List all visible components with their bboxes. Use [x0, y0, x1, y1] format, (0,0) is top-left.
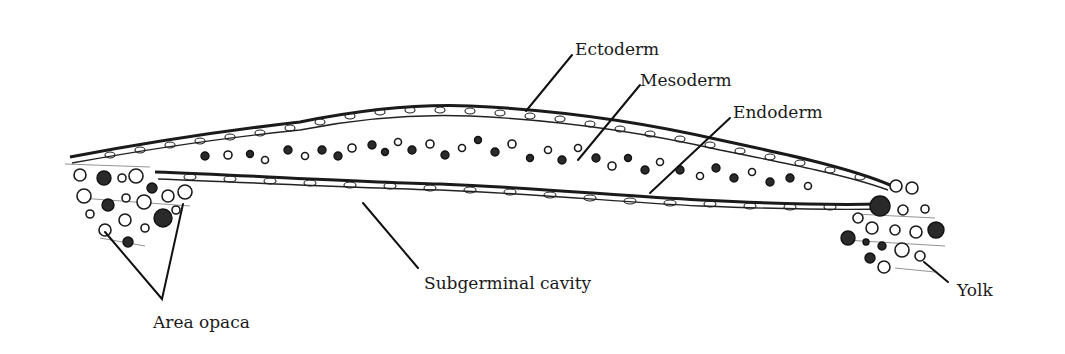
yolk-cells [841, 180, 945, 273]
embryo-cross-section-diagram: Ectoderm Mesoderm Endoderm Subgerminal c… [0, 0, 1065, 354]
area-opaca-label: Area opaca [152, 312, 250, 332]
yolk-leader-line [924, 262, 948, 282]
ectoderm-leader-line [526, 55, 572, 111]
subgerminal-cavity-label: Subgerminal cavity [424, 273, 592, 293]
ectoderm-label: Ectoderm [575, 39, 659, 59]
mesoderm-cells [201, 137, 812, 190]
subgerminal-cavity-leader-line [363, 203, 418, 268]
endoderm-label: Endoderm [733, 102, 823, 122]
mesoderm-label: Mesoderm [640, 70, 732, 90]
area-opaca-cells [65, 164, 192, 247]
yolk-label: Yolk [956, 280, 993, 300]
